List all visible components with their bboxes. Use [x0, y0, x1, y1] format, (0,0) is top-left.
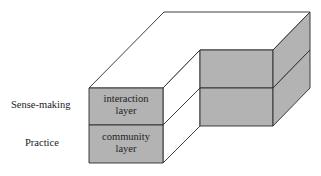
community-layer-label: community layer: [89, 131, 163, 155]
row-label-sense-making: Sense-making: [11, 99, 71, 110]
community-layer-line1: community: [89, 131, 163, 143]
interaction-layer-line1: interaction: [89, 93, 163, 105]
row-label-practice: Practice: [25, 137, 59, 148]
back-block-front-top: [200, 50, 273, 88]
back-block-front-bottom: [200, 88, 273, 126]
community-layer-line2: layer: [89, 143, 163, 155]
interaction-layer-label: interaction layer: [89, 93, 163, 117]
interaction-layer-line2: layer: [89, 105, 163, 117]
